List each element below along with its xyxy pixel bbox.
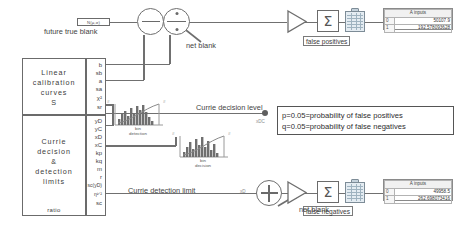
calib-output-b: b	[99, 62, 102, 68]
currie-output-eta: η¹ᐟ²	[94, 191, 102, 197]
table-top-row1-index: 1	[385, 25, 395, 33]
calib-output-sr: sr	[97, 104, 102, 110]
linear-calibration-curves-box[interactable]: Linear calibration curves S	[22, 58, 86, 115]
wire-a-riser	[143, 35, 145, 80]
currie-output-yC: yC	[95, 126, 102, 132]
currie-decision-level-label: Currie decision level	[196, 103, 263, 112]
calib-title-line-4: S	[23, 98, 85, 108]
divide-icon	[164, 9, 189, 34]
currie-title-line-3: &	[23, 157, 85, 167]
calib-title-line-2: calibration	[23, 78, 85, 88]
table-bottom-header: A inputs	[385, 181, 452, 189]
histogram1-right-marker: #	[163, 99, 165, 104]
sigma-glyph-bottom: Σ	[318, 182, 338, 202]
minus-icon	[138, 9, 163, 34]
calib-title-line-1: Linear	[23, 68, 85, 78]
currie-output-yD: yD	[95, 118, 102, 124]
histogram1-caption-line-2: detection	[107, 131, 169, 136]
probability-line-1: p=0.05=probability of false positives	[282, 110, 403, 121]
table-row: 1 262.698073416	[385, 196, 452, 204]
histogram-bin-detection[interactable]: # # bin detection	[113, 101, 175, 133]
future-true-blank-value-box[interactable]: N(μ,σ)	[77, 18, 110, 26]
future-true-blank-value: N(μ,σ)	[78, 19, 109, 25]
currie-output-scyD: sc(yD)	[88, 182, 102, 188]
table-row: 1 192.578093628	[385, 25, 452, 33]
table-bottom-row1-value: 262.698073416	[395, 196, 452, 204]
net-blank-top-label: net blank	[186, 41, 216, 50]
currie-decision-detection-limits-box[interactable]: Currie decision & detection limits ratio	[22, 115, 86, 216]
spreadsheet-body-bottom	[345, 182, 365, 203]
probability-legend-box: p=0.05=probability of false positives q=…	[277, 106, 454, 135]
table-top-header: A inputs	[385, 10, 452, 18]
table-bottom-row0-index: 0	[385, 188, 395, 196]
currie-output-kp: kp	[96, 150, 102, 156]
add-operator[interactable]	[256, 180, 282, 206]
calibration-output-port-column: b sb a sa χ² sr	[86, 58, 106, 115]
table-bottom-row1-index: 1	[385, 196, 395, 204]
calib-output-a: a	[99, 78, 102, 84]
false-positives-tag[interactable]: false positives	[303, 36, 350, 46]
table-top-row0-value: 50107.9	[395, 17, 452, 25]
currie-output-port-column: yD yC xD xC kp kq m r sc(yD) η¹ᐟ² sc	[86, 115, 106, 216]
currie-title-line-4: detection	[23, 167, 85, 177]
currie-output-xD: xD	[95, 134, 102, 140]
currie-output-r: r	[100, 174, 102, 180]
histogram2-right-marker: #	[228, 131, 230, 136]
currie-ratio-label: ratio	[23, 205, 85, 215]
table-top-row1-value: 192.578093628	[395, 25, 452, 33]
calib-output-chi2: χ²	[97, 95, 102, 101]
wire-sheet-to-table-top	[365, 22, 383, 24]
table-bottom-row0-value: 49958.5	[395, 188, 452, 196]
xdc-marker-label: xDC	[256, 119, 265, 124]
calib-title-line-3: curves	[23, 88, 85, 98]
wire-hist2-feed	[96, 145, 176, 147]
summation-block-top[interactable]: Σ	[317, 10, 339, 32]
probability-line-2: q=0.05=probability of false negatives	[282, 121, 406, 132]
wire-b-riser	[169, 35, 171, 64]
diagram-canvas: N(μ,σ) future true blank Linear calibrat…	[0, 0, 456, 231]
histogram-bin-decision[interactable]: # # bin decision	[178, 133, 240, 165]
calib-output-sb: sb	[96, 70, 102, 76]
wire-ftb-to-subtract	[110, 22, 137, 24]
spreadsheet-body-top	[345, 11, 365, 32]
xd-marker-label: xD	[240, 189, 246, 194]
spreadsheet-icon-top[interactable]	[345, 8, 365, 32]
wire-b-to-divide	[106, 64, 170, 66]
subtract-operator[interactable]	[137, 8, 164, 35]
plus-icon	[257, 181, 281, 205]
summation-block-bottom[interactable]: Σ	[317, 181, 339, 203]
currie-output-xC: xC	[95, 142, 102, 148]
wire-sheet-to-table-bottom	[365, 193, 383, 195]
divide-operator[interactable]	[163, 8, 190, 35]
currie-detection-limit-label: Currie detection limit	[128, 186, 195, 195]
currie-output-m: m	[97, 166, 102, 172]
currie-title-line-5: limits	[23, 177, 85, 187]
sigma-glyph-top: Σ	[318, 11, 338, 31]
currie-output-sc: sc	[96, 200, 102, 206]
histogram2-caption-line-2: decision	[172, 163, 234, 168]
false-negatives-table[interactable]: A inputs 0 49958.5 1 262.698073416	[383, 179, 453, 201]
table-row: 0 50107.9	[385, 17, 452, 25]
net-blank-bottom-label: net blank	[299, 205, 329, 214]
currie-output-kq: kq	[96, 158, 102, 164]
table-top-row0-index: 0	[385, 17, 395, 25]
wire-hist2-riser	[175, 137, 177, 146]
spreadsheet-icon-bottom[interactable]	[345, 179, 365, 203]
false-positives-table[interactable]: A inputs 0 50107.9 1 192.578093628	[383, 8, 453, 30]
calib-output-sa: sa	[96, 86, 102, 92]
histogram1-left-marker: #	[107, 99, 109, 104]
currie-title-line-1: Currie	[23, 137, 85, 147]
histogram2-left-marker: #	[172, 131, 174, 136]
wire-a-to-subtract	[106, 80, 144, 82]
table-row: 0 49958.5	[385, 188, 452, 196]
future-true-blank-label: future true blank	[44, 27, 97, 36]
currie-title-line-2: decision	[23, 147, 85, 157]
